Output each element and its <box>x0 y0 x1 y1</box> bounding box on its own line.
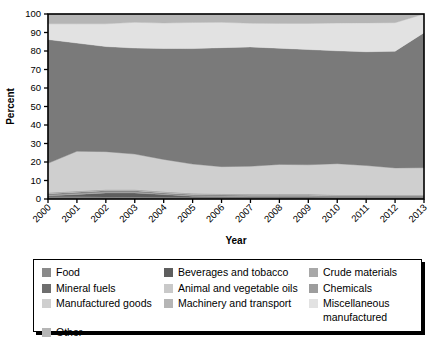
x-tick-label: 2008 <box>262 202 285 225</box>
legend-grid: FoodBeverages and tobaccoCrude materials… <box>42 265 418 341</box>
legend-item[interactable]: Animal and vegetable oils <box>164 281 309 297</box>
legend-item-label: Animal and vegetable oils <box>178 282 298 296</box>
plot-region: 0102030405060708090100200020012002200320… <box>0 0 435 255</box>
legend-swatch-icon <box>309 299 318 308</box>
legend-item-label: Manufactured goods <box>56 297 152 311</box>
legend-item[interactable]: Machinery and transport <box>164 296 309 325</box>
x-tick-label: 2005 <box>175 202 198 225</box>
y-tick-label: 0 <box>36 193 41 204</box>
y-tick-label: 100 <box>25 8 41 19</box>
legend-item-label: Other <box>56 326 82 340</box>
x-tick-label: 2000 <box>30 202 53 225</box>
legend-item[interactable]: Crude materials <box>309 265 417 281</box>
legend-swatch-icon <box>164 299 173 308</box>
y-tick-label: 30 <box>30 138 41 149</box>
legend-item[interactable]: Food <box>42 265 164 281</box>
legend-swatch-icon <box>42 268 51 277</box>
y-tick-label: 70 <box>30 64 41 75</box>
y-axis-title: Percent <box>5 87 16 124</box>
y-tick-label: 50 <box>30 101 41 112</box>
legend-item[interactable]: Chemicals <box>309 281 417 297</box>
x-tick-label: 2012 <box>377 202 400 225</box>
legend-item-label: Chemicals <box>323 282 372 296</box>
legend-item-label: Crude materials <box>323 266 397 280</box>
y-tick-label: 90 <box>30 27 41 38</box>
legend-item-label: Miscellaneous manufactured <box>323 297 390 324</box>
x-tick-label: 2011 <box>349 202 371 224</box>
x-tick-label: 2009 <box>290 202 313 225</box>
area-series-9 <box>48 14 424 24</box>
legend-swatch-icon <box>309 268 318 277</box>
legend-item-label: Food <box>56 266 80 280</box>
x-tick-label: 2003 <box>117 202 140 225</box>
x-tick-label: 2002 <box>88 202 111 225</box>
x-tick-label: 2007 <box>233 202 256 225</box>
legend-swatch-icon <box>164 268 173 277</box>
y-tick-label: 10 <box>30 175 41 186</box>
stacked-area-chart: 0102030405060708090100200020012002200320… <box>0 0 435 348</box>
chart-legend: FoodBeverages and tobaccoCrude materials… <box>33 259 422 332</box>
legend-item-label: Machinery and transport <box>178 297 291 311</box>
x-tick-label: 2006 <box>204 202 227 225</box>
chart-svg: 0102030405060708090100200020012002200320… <box>0 0 435 255</box>
legend-swatch-icon <box>42 284 51 293</box>
x-tick-label: 2004 <box>146 202 169 225</box>
x-tick-label: 2001 <box>59 202 82 225</box>
legend-item[interactable]: Beverages and tobacco <box>164 265 309 281</box>
legend-swatch-icon <box>42 328 51 337</box>
legend-item[interactable]: Other <box>42 325 164 341</box>
legend-item-label: Beverages and tobacco <box>178 266 288 280</box>
legend-swatch-icon <box>309 284 318 293</box>
x-tick-label: 2013 <box>406 202 429 225</box>
legend-swatch-icon <box>42 299 51 308</box>
y-tick-label: 20 <box>30 156 41 167</box>
y-tick-label: 60 <box>30 82 41 93</box>
area-series-7 <box>48 33 424 168</box>
legend-item-label: Mineral fuels <box>56 282 116 296</box>
y-tick-label: 40 <box>30 119 41 130</box>
legend-swatch-icon <box>164 284 173 293</box>
legend-item[interactable]: Manufactured goods <box>42 296 164 325</box>
legend-item[interactable]: Mineral fuels <box>42 281 164 297</box>
legend-item[interactable]: Miscellaneous manufactured <box>309 296 417 325</box>
x-axis-title: Year <box>225 235 246 246</box>
x-tick-label: 2010 <box>319 202 342 225</box>
y-tick-label: 80 <box>30 45 41 56</box>
